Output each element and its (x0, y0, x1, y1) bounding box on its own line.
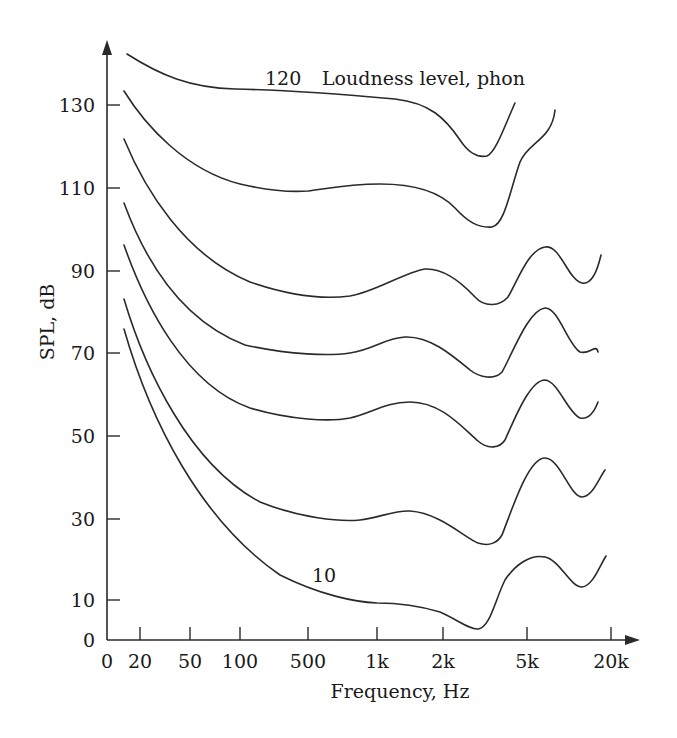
x-axis-arrow-icon (625, 635, 640, 645)
loudness-curve-10-phon (124, 329, 606, 629)
x-tick-label: 0 (101, 650, 113, 672)
legend-title: Loudness level, phon (322, 67, 525, 89)
x-tick-label: 100 (222, 650, 258, 672)
curve-label-10: 10 (312, 564, 336, 586)
y-tick-label: 90 (71, 260, 95, 282)
x-tick-label: 500 (290, 650, 326, 672)
y-axis-arrow-icon (102, 40, 112, 55)
y-tick-label: 0 (83, 629, 95, 651)
y-tick-label: 50 (71, 425, 95, 447)
y-axis-title: SPL, dB (36, 284, 58, 361)
loudness-curve-30-phon (124, 299, 605, 544)
x-tick-label: 5k (515, 650, 539, 672)
y-axis (102, 40, 112, 640)
y-tick-label: 110 (59, 177, 95, 199)
y-tick-label: 130 (59, 94, 95, 116)
x-tick-label: 50 (178, 650, 202, 672)
y-tick-label: 70 (71, 342, 95, 364)
loudness-curves (124, 54, 606, 629)
x-ticks: 020501005001k2k5k20k (101, 627, 629, 672)
x-axis (107, 635, 640, 645)
x-tick-label: 20 (128, 650, 152, 672)
x-tick-label: 1k (365, 650, 389, 672)
loudness-curve-60-phon (124, 203, 598, 377)
loudness-curve-100-phon (124, 91, 555, 227)
x-axis-title: Frequency, Hz (331, 680, 470, 702)
y-ticks: 13011090705030100 (59, 94, 120, 651)
equal-loudness-chart: 13011090705030100 020501005001k2k5k20k S… (0, 0, 677, 738)
curve-label-120: 120 (265, 67, 301, 89)
x-tick-label: 20k (593, 650, 629, 672)
y-tick-label: 30 (71, 508, 95, 530)
y-tick-label: 10 (71, 589, 95, 611)
x-tick-label: 2k (431, 650, 455, 672)
loudness-curve-50-phon (124, 245, 598, 447)
